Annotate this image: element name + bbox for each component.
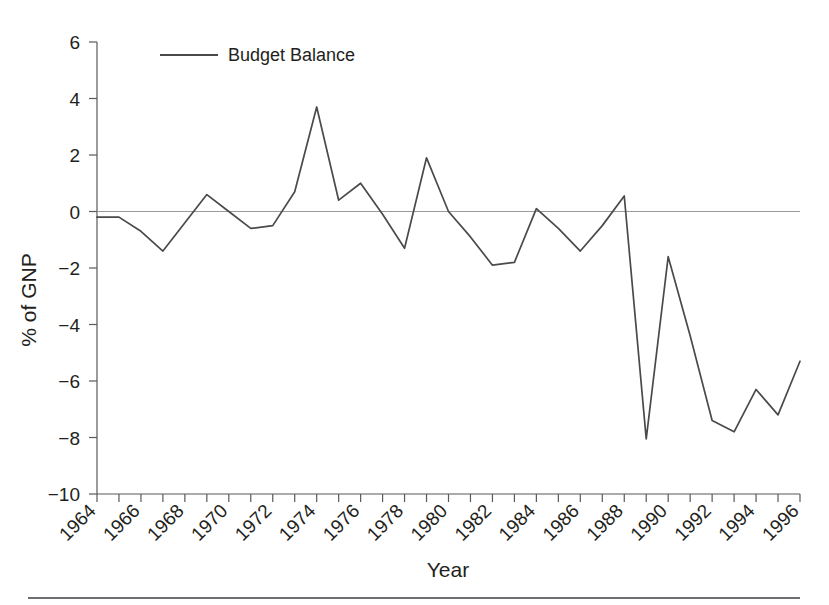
x-tick-label: 1970 (187, 500, 232, 545)
x-tick-label: 1978 (363, 500, 408, 545)
x-tick-label: 1990 (626, 500, 671, 545)
y-axis-ticks (89, 42, 97, 494)
y-tick-label: −4 (58, 315, 80, 336)
x-tick-label: 1996 (758, 500, 803, 545)
budget-balance-line-chart: 6 4 2 0 −2 −4 −6 −8 −10 % of GNP 1964196… (0, 0, 829, 605)
x-axis-title: Year (427, 558, 469, 581)
x-axis-minor-ticks (97, 494, 800, 502)
y-tick-label: −8 (58, 428, 80, 449)
x-tick-label: 1968 (143, 500, 188, 545)
chart-figure: 6 4 2 0 −2 −4 −6 −8 −10 % of GNP 1964196… (0, 0, 829, 605)
x-tick-label: 1976 (319, 500, 364, 545)
x-tick-label: 1986 (538, 500, 583, 545)
x-tick-label: 1994 (714, 500, 759, 545)
x-tick-label: 1974 (275, 500, 320, 545)
series-budget-balance (97, 107, 800, 439)
x-tick-label: 1982 (451, 500, 496, 545)
y-tick-label: 6 (69, 32, 80, 53)
x-axis-tick-labels: 1964196619681970197219741976197819801982… (55, 500, 803, 545)
x-tick-label: 1988 (582, 500, 627, 545)
x-tick-label: 1992 (670, 500, 715, 545)
x-tick-label: 1966 (99, 500, 144, 545)
x-tick-label: 1984 (494, 500, 539, 545)
y-tick-label: −2 (58, 258, 80, 279)
y-tick-label: −6 (58, 371, 80, 392)
legend-label-budget-balance: Budget Balance (228, 45, 355, 65)
y-axis-tick-labels: 6 4 2 0 −2 −4 −6 −8 −10 (48, 32, 81, 505)
chart-legend: Budget Balance (160, 45, 355, 65)
y-tick-label: 4 (69, 89, 80, 110)
y-tick-label: −10 (48, 484, 80, 505)
y-axis-title: % of GNP (17, 253, 40, 346)
x-tick-label: 1980 (407, 500, 452, 545)
x-tick-label: 1972 (231, 500, 276, 545)
y-tick-label: 0 (69, 202, 80, 223)
x-tick-label: 1964 (55, 500, 100, 545)
y-tick-label: 2 (69, 145, 80, 166)
